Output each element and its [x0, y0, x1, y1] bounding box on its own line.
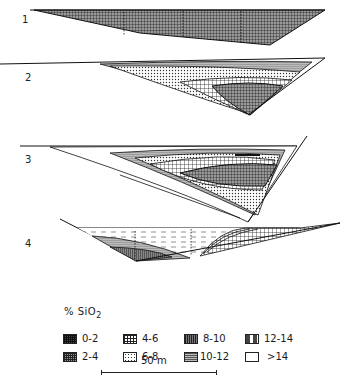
legend-title-subscript: 2: [96, 311, 102, 320]
legend-item-0-2: 0-2: [63, 333, 98, 344]
swatch-vertical-lines-icon: [184, 334, 198, 344]
legend-label: 12-14: [264, 333, 293, 344]
section-label-1: 1: [22, 14, 28, 25]
legend-title: % SiO2: [64, 306, 102, 320]
section-2: [0, 58, 325, 115]
legend-item-10-12: 10-12: [184, 351, 229, 362]
swatch-dots-icon: [123, 352, 137, 362]
legend-item-8-10: 8-10: [184, 333, 226, 344]
scale-bar-tick-right: [216, 370, 217, 375]
legend-label: 4-6: [142, 333, 158, 344]
swatch-dense-grid-icon: [63, 334, 77, 344]
swatch-blank-icon: [245, 352, 259, 362]
section-1: [30, 10, 325, 45]
section-label-2: 2: [25, 72, 31, 83]
section-3: [20, 136, 307, 222]
swatch-grid-icon: [63, 352, 77, 362]
legend-label: 8-10: [203, 333, 226, 344]
scale-bar-tick-left: [101, 370, 102, 375]
section-label-4: 4: [25, 238, 31, 249]
legend-title-text: % SiO: [64, 306, 96, 317]
legend-item-12-14: 12-14: [245, 333, 293, 344]
legend-item-4-6: 4-6: [123, 333, 158, 344]
scale-bar: [101, 367, 217, 375]
legend-label: 10-12: [200, 351, 229, 362]
swatch-horizontal-lines-icon: [184, 352, 198, 362]
swatch-dashes-icon: [245, 334, 259, 344]
legend-item-2-4: 2-4: [63, 351, 98, 362]
swatch-open-grid-icon: [123, 334, 137, 344]
cross-section-diagram: [0, 0, 347, 388]
section-label-3: 3: [25, 154, 31, 165]
section-4: [60, 219, 340, 261]
legend-label: >14: [267, 351, 288, 362]
legend-label: 0-2: [82, 333, 98, 344]
legend-label: 2-4: [82, 351, 98, 362]
legend-item-over-14: >14: [245, 351, 288, 362]
scale-bar-line: [101, 372, 217, 373]
scale-bar-label: 50 m: [141, 355, 167, 366]
